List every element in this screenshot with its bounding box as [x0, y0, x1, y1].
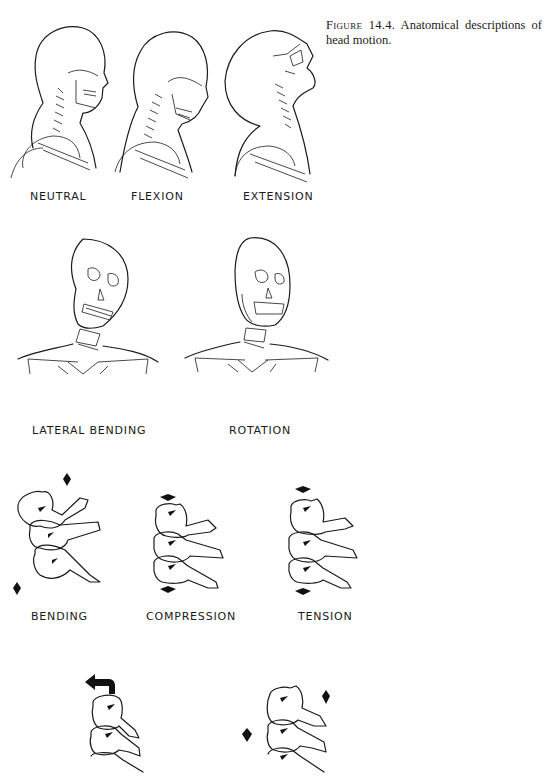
extension-head-illustration: [215, 26, 320, 186]
compression-arrow-top-icon: [160, 494, 176, 501]
tension-label: TENSION: [298, 610, 353, 623]
extension-label: EXTENSION: [243, 190, 314, 203]
compression-arrow-bottom-icon: [160, 586, 176, 593]
neutral-head-illustration: [8, 18, 108, 178]
compression-vertebrae-illustration: [148, 490, 233, 595]
shear-vertebrae-illustration: [240, 676, 340, 776]
lateral-bending-label: LATERAL BENDING: [32, 424, 146, 437]
bending-force-arrow-top-icon: [63, 473, 71, 486]
flexion-label: FLEXION: [131, 190, 184, 203]
tension-arrow-top-icon: [295, 486, 311, 493]
figure-number: Figure 14.4.: [326, 18, 395, 32]
flexion-head-illustration: [110, 22, 210, 182]
compression-label: COMPRESSION: [146, 610, 236, 623]
bending-label: BENDING: [31, 610, 88, 623]
lateral-bending-skeleton-illustration: [8, 234, 163, 374]
shear-arrow-left-icon: [242, 728, 252, 742]
rotation-label: ROTATION: [229, 424, 291, 437]
rotation-skeleton-illustration: [180, 230, 330, 375]
bending-force-arrow-bottom-icon: [13, 582, 21, 595]
torsion-vertebrae-illustration: [85, 672, 165, 772]
shear-arrow-right-icon: [322, 690, 330, 704]
bending-vertebrae-illustration: [10, 470, 105, 590]
tension-arrow-bottom-icon: [295, 588, 311, 595]
figure-caption: Figure 14.4. Anatomical descriptions of …: [326, 18, 542, 48]
torsion-arrow-icon: [85, 674, 115, 694]
tension-vertebrae-illustration: [285, 484, 365, 599]
neutral-label: NEUTRAL: [30, 190, 86, 203]
